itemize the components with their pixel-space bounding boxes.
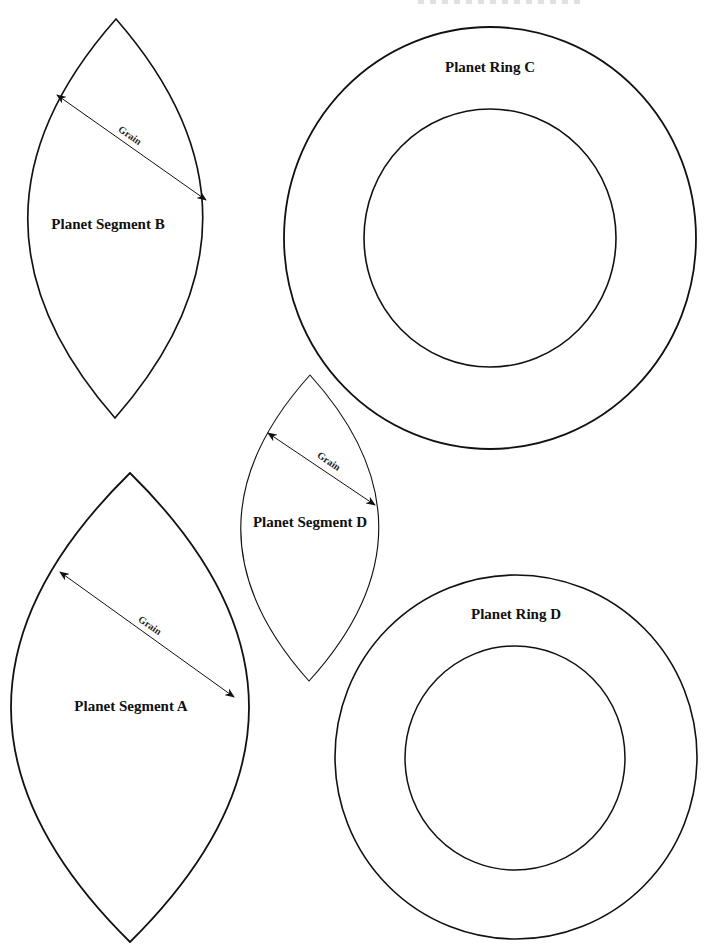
segment-b-label: Planet Segment B <box>51 216 164 232</box>
ring-d-outer-circle <box>335 575 697 939</box>
pattern-sheet: Grain Planet Segment B Planet Ring C Gra… <box>0 0 709 945</box>
piece-ring-c: Planet Ring C <box>284 27 696 449</box>
ring-c-outer-circle <box>284 27 696 449</box>
ring-d-inner-circle <box>405 646 625 870</box>
grain-label: Grain <box>315 449 343 473</box>
grain-label: Grain <box>116 123 144 147</box>
ring-d-label: Planet Ring D <box>471 606 561 622</box>
grain-arrow-icon <box>57 95 206 200</box>
grain-label: Grain <box>136 613 164 637</box>
ring-c-inner-circle <box>364 109 616 367</box>
piece-segment-a: Grain Planet Segment A <box>11 473 249 942</box>
ring-c-label: Planet Ring C <box>445 59 535 75</box>
grain-arrow-icon <box>268 433 375 505</box>
piece-ring-d: Planet Ring D <box>335 575 697 939</box>
piece-segment-d: Grain Planet Segment D <box>241 375 379 681</box>
segment-a-label: Planet Segment A <box>74 698 187 714</box>
grain-arrow-icon <box>60 572 234 697</box>
segment-d-label: Planet Segment D <box>253 514 367 530</box>
piece-segment-b: Grain Planet Segment B <box>28 19 206 418</box>
